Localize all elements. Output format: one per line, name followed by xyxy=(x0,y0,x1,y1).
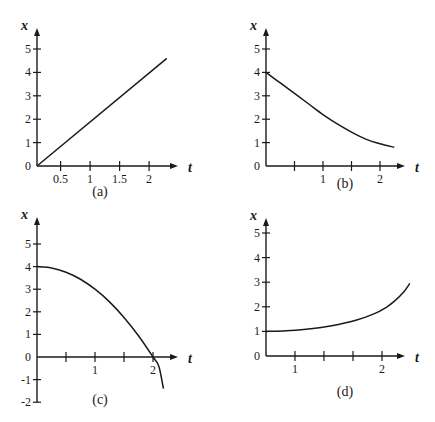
y-axis-arrow-icon xyxy=(263,218,269,226)
t-tick-label: 1.5 xyxy=(112,172,127,186)
position-curve xyxy=(37,267,163,389)
y-axis-arrow-icon xyxy=(34,217,40,225)
panel-a: xt0123450.511.52(a) xyxy=(20,18,193,200)
y-axis-label: x xyxy=(20,207,28,222)
y-tick-label: 1 xyxy=(25,327,31,341)
y-tick-label: 5 xyxy=(254,226,260,240)
y-tick-label: 1 xyxy=(254,324,260,338)
y-tick-label: 5 xyxy=(25,42,31,56)
t-axis-arrow-icon xyxy=(170,354,178,360)
y-axis-label: x xyxy=(249,18,257,33)
y-tick-label: 2 xyxy=(25,305,31,319)
panel-d: xt01234512(d) xyxy=(249,208,420,400)
y-tick-label: 5 xyxy=(254,42,260,56)
y-tick-label: 2 xyxy=(254,112,260,126)
y-tick-label: 0 xyxy=(254,349,260,363)
position-curve xyxy=(37,58,167,166)
y-tick-label: 0 xyxy=(25,159,31,173)
y-axis-arrow-icon xyxy=(263,28,269,36)
y-tick-label: 1 xyxy=(254,136,260,150)
y-tick-label: 2 xyxy=(254,300,260,314)
y-tick-label: 4 xyxy=(25,260,31,274)
panel-c: xt-2-101234512(c) xyxy=(20,207,193,409)
t-axis-label: t xyxy=(415,350,420,365)
panel-caption: (c) xyxy=(92,392,108,408)
position-curve xyxy=(266,72,394,147)
panel-b: xt01234512(b) xyxy=(249,18,420,192)
t-axis-label: t xyxy=(415,160,420,175)
t-tick-label: 0.5 xyxy=(53,172,68,186)
panel-caption: (d) xyxy=(337,384,354,400)
y-tick-label: 4 xyxy=(254,65,260,79)
y-tick-label: -2 xyxy=(21,395,31,409)
y-tick-label: 1 xyxy=(25,136,31,150)
t-axis-arrow-icon xyxy=(170,163,178,169)
t-axis-arrow-icon xyxy=(397,163,405,169)
y-tick-label: 3 xyxy=(254,275,260,289)
t-tick-label: 2 xyxy=(377,172,383,186)
y-axis-arrow-icon xyxy=(34,28,40,36)
t-tick-label: 2 xyxy=(146,172,152,186)
t-tick-label: 1 xyxy=(320,172,326,186)
y-tick-label: 3 xyxy=(25,89,31,103)
y-tick-label: 2 xyxy=(25,112,31,126)
y-axis-label: x xyxy=(20,18,28,33)
y-tick-label: 4 xyxy=(25,65,31,79)
t-tick-label: 1 xyxy=(92,363,98,377)
y-tick-label: 0 xyxy=(254,159,260,173)
y-tick-label: 3 xyxy=(254,89,260,103)
panel-caption: (a) xyxy=(92,184,108,200)
kinematics-figure: xt0123450.511.52(a)xt01234512(b)xt-2-101… xyxy=(0,0,435,422)
t-tick-label: 2 xyxy=(379,362,385,376)
t-axis-arrow-icon xyxy=(397,353,405,359)
y-tick-label: 3 xyxy=(25,282,31,296)
t-tick-label: 2 xyxy=(150,363,156,377)
t-axis-label: t xyxy=(188,351,193,366)
y-axis-label: x xyxy=(249,208,257,223)
t-axis-label: t xyxy=(188,160,193,175)
y-tick-label: 5 xyxy=(25,237,31,251)
y-tick-label: 0 xyxy=(25,350,31,364)
position-curve xyxy=(266,283,410,331)
y-tick-label: 4 xyxy=(254,251,260,265)
y-tick-label: -1 xyxy=(21,373,31,387)
panel-caption: (b) xyxy=(337,176,354,192)
t-tick-label: 1 xyxy=(292,362,298,376)
